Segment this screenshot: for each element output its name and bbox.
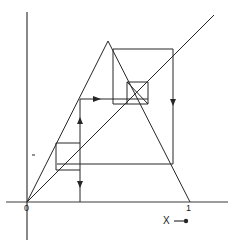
x-axis-label: X [163, 216, 170, 226]
arrow-right-upper-icon [93, 96, 101, 102]
cobweb-diagram-svg [0, 0, 235, 250]
arrow-markers-group [77, 96, 176, 188]
identity-line [27, 15, 214, 202]
x-axis-label-arrow-group [174, 219, 188, 223]
x-axis-label-arrow-head [184, 219, 188, 223]
x-unit-label: 1 [186, 204, 191, 213]
arrow-down-lower-icon [77, 181, 83, 188]
cobweb-inner-diagonal [127, 82, 148, 104]
tent-left-branch [27, 41, 108, 202]
cobweb-left-box [56, 143, 80, 170]
axes-group [6, 12, 228, 240]
identity-line-group [27, 15, 214, 202]
tent-right-branch [108, 41, 190, 202]
cobweb-outer-rectangle [57, 49, 173, 164]
origin-label: 0 [24, 204, 29, 213]
figure-canvas: 0 1 X [0, 0, 235, 250]
cobweb-inner-box [127, 82, 148, 104]
arrow-down-right-icon [170, 99, 176, 106]
arrow-up-left-icon [77, 117, 83, 124]
